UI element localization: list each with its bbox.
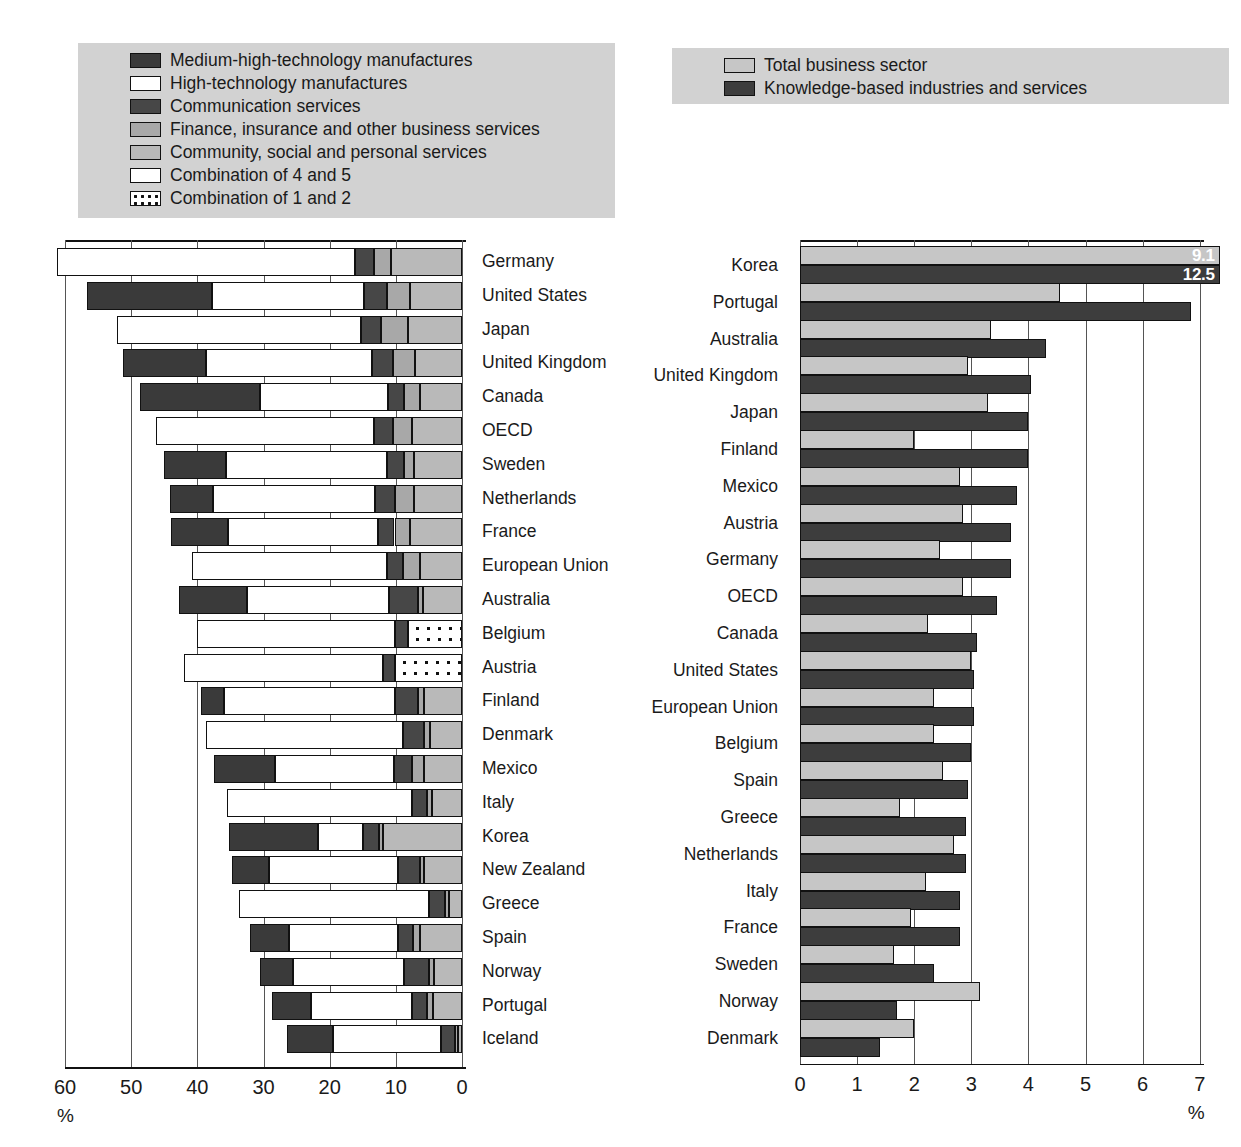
left-bar-segment-community — [423, 586, 462, 614]
left-bar-row[interactable] — [0, 248, 462, 276]
right-axis-tick-0: 0 — [778, 1073, 822, 1096]
right-bar-tbs[interactable] — [800, 356, 968, 375]
right-bar-kbis[interactable] — [800, 927, 960, 946]
right-bar-kbis[interactable] — [800, 707, 974, 726]
right-axis-tick-4: 4 — [1006, 1073, 1050, 1096]
left-bar-segment-communication — [378, 518, 395, 546]
right-bar-kbis[interactable] — [800, 1038, 880, 1057]
right-bar-tbs[interactable] — [800, 835, 954, 854]
right-bar-tbs[interactable] — [800, 430, 914, 449]
right-bar-tbs[interactable] — [800, 798, 900, 817]
left-bar-row[interactable] — [0, 485, 462, 513]
right-bar-kbis[interactable]: 12.5 — [800, 265, 1220, 284]
right-bar-tbs[interactable] — [800, 577, 963, 596]
right-bar-kbis[interactable] — [800, 964, 934, 983]
right-category-label: United States — [620, 660, 778, 681]
left-bar-row[interactable] — [0, 755, 462, 783]
left-bar-segment-communication — [388, 383, 405, 411]
left-axis-tick-0: 0 — [440, 1076, 484, 1099]
right-bar-tbs[interactable] — [800, 761, 943, 780]
right-bar-kbis[interactable] — [800, 1001, 897, 1020]
right-bar-kbis[interactable] — [800, 486, 1017, 505]
right-bar-tbs[interactable] — [800, 1019, 914, 1038]
left-bar-row[interactable] — [0, 823, 462, 851]
right-bar-kbis[interactable] — [800, 412, 1028, 431]
left-category-label: Germany — [482, 251, 554, 272]
right-bar-kbis[interactable] — [800, 523, 1011, 542]
right-bar-tbs[interactable] — [800, 724, 934, 743]
right-bar-tbs[interactable] — [800, 688, 934, 707]
left-bar-segment-medium_high_tech — [260, 958, 293, 986]
left-bar-segment-community — [391, 248, 462, 276]
left-bar-segment-communication — [363, 823, 378, 851]
left-bar-row[interactable] — [0, 890, 462, 918]
right-bar-tbs[interactable]: 9.1 — [800, 246, 1220, 265]
left-bar-row[interactable] — [0, 958, 462, 986]
right-category-label: Denmark — [620, 1028, 778, 1049]
left-bar-segment-combination_4_5 — [192, 552, 387, 580]
left-bar-row[interactable] — [0, 586, 462, 614]
right-bar-tbs[interactable] — [800, 945, 894, 964]
left-bar-segment-finance — [427, 992, 433, 1020]
left-bar-row[interactable] — [0, 1025, 462, 1053]
left-bar-segment-high_tech — [293, 958, 403, 986]
left-bar-segment-community — [412, 417, 462, 445]
left-bar-row[interactable] — [0, 924, 462, 952]
left-bar-row[interactable] — [0, 518, 462, 546]
left-bar-segment-medium_high_tech — [214, 755, 275, 783]
right-bar-tbs[interactable] — [800, 504, 963, 523]
left-category-label: Iceland — [482, 1028, 538, 1049]
left-bar-row[interactable] — [0, 687, 462, 715]
right-bar-kbis[interactable] — [800, 670, 974, 689]
right-bar-tbs[interactable] — [800, 872, 926, 891]
left-bar-segment-high_tech — [333, 1025, 442, 1053]
left-bar-row[interactable] — [0, 992, 462, 1020]
right-bar-kbis[interactable] — [800, 633, 977, 652]
right-bar-tbs[interactable] — [800, 320, 991, 339]
left-bar-row[interactable] — [0, 721, 462, 749]
left-bar-row[interactable] — [0, 552, 462, 580]
right-bar-tbs[interactable] — [800, 467, 960, 486]
left-bar-segment-community — [430, 721, 462, 749]
right-bar-tbs[interactable] — [800, 283, 1060, 302]
right-bar-tbs[interactable] — [800, 540, 940, 559]
right-bar-kbis[interactable] — [800, 302, 1191, 321]
left-bar-segment-high_tech — [260, 383, 388, 411]
right-bar-tbs[interactable] — [800, 651, 971, 670]
left-bar-row[interactable] — [0, 856, 462, 884]
left-bar-segment-finance — [381, 316, 409, 344]
right-bar-tbs[interactable] — [800, 982, 980, 1001]
right-bar-tbs[interactable] — [800, 908, 911, 927]
right-chart-gridline-6 — [1143, 240, 1144, 1064]
right-category-label: Netherlands — [620, 844, 778, 865]
left-bar-row[interactable] — [0, 383, 462, 411]
left-bar-row[interactable] — [0, 451, 462, 479]
left-bar-row[interactable] — [0, 789, 462, 817]
right-bar-kbis[interactable] — [800, 743, 971, 762]
left-bar-segment-combination_4_5 — [197, 620, 396, 648]
right-bar-kbis[interactable] — [800, 375, 1031, 394]
right-bar-kbis[interactable] — [800, 559, 1011, 578]
left-bar-row[interactable] — [0, 654, 462, 682]
right-bar-kbis[interactable] — [800, 596, 997, 615]
left-bar-segment-finance — [455, 1025, 458, 1053]
right-bar-tbs[interactable] — [800, 393, 988, 412]
right-axis-unit-label: % — [1188, 1102, 1205, 1124]
right-bar-tbs[interactable] — [800, 614, 928, 633]
right-bar-kbis[interactable] — [800, 891, 960, 910]
left-bar-row[interactable] — [0, 282, 462, 310]
right-bar-kbis[interactable] — [800, 854, 966, 873]
right-bar-kbis[interactable] — [800, 339, 1046, 358]
left-bar-row[interactable] — [0, 349, 462, 377]
left-bar-row[interactable] — [0, 417, 462, 445]
left-bar-row[interactable] — [0, 620, 462, 648]
left-bar-segment-communication — [403, 721, 424, 749]
right-bar-kbis[interactable] — [800, 780, 968, 799]
right-bar-kbis[interactable] — [800, 449, 1028, 468]
left-bar-row[interactable] — [0, 316, 462, 344]
left-bar-segment-finance — [404, 451, 414, 479]
left-bar-segment-community — [414, 485, 462, 513]
left-bar-segment-communication — [389, 586, 419, 614]
right-bar-kbis[interactable] — [800, 817, 966, 836]
left-bar-segment-high_tech — [206, 349, 372, 377]
